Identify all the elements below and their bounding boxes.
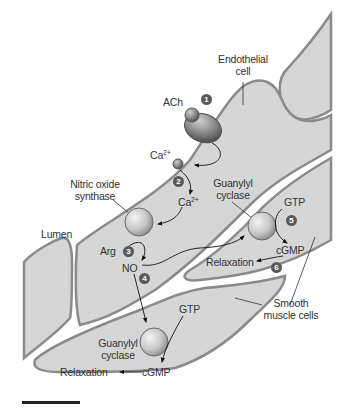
label-ca-mid-text: Ca: [178, 196, 191, 208]
step-badge-1: 1: [201, 94, 212, 105]
step-badge-4: 4: [139, 273, 150, 284]
label-gtp-lower: GTP: [179, 303, 200, 315]
label-no: NO: [122, 262, 137, 274]
label-endothelial-cell: Endothelial cell: [214, 53, 272, 77]
label-ca-top-text: Ca: [150, 149, 163, 161]
step-badge-6: 6: [271, 262, 282, 273]
label-guanylyl-cyclase-lower: Guanylyl cyclase: [93, 337, 143, 361]
label-gc-lower-line1: Guanylyl: [93, 337, 143, 349]
label-nos-line2: synthase: [62, 190, 128, 202]
label-arg: Arg: [100, 245, 116, 257]
label-ca-top: Ca2+: [150, 149, 171, 161]
label-cgmp-upper: cGMP: [276, 244, 304, 256]
label-ach: ACh: [163, 96, 183, 108]
label-cgmp-lower: cGMP: [142, 366, 170, 378]
label-ca-mid: Ca2+: [178, 196, 199, 208]
label-gtp-upper: GTP: [284, 196, 305, 208]
label-guanylyl-cyclase-upper: Guanylyl cyclase: [208, 177, 258, 201]
left-cell: [24, 238, 72, 358]
label-nitric-oxide-synthase: Nitric oxide synthase: [62, 178, 128, 202]
label-gc-upper-line2: cyclase: [208, 189, 258, 201]
label-nos-line1: Nitric oxide: [62, 178, 128, 190]
label-smooth-line1: Smooth: [261, 297, 321, 309]
label-ca-top-sup: 2+: [163, 149, 171, 156]
label-ca-mid-sup: 2+: [191, 196, 199, 203]
diagram-canvas: Endothelial cell ACh 1 Ca2+ 2 Nitric oxi…: [0, 0, 351, 408]
label-lumen: Lumen: [41, 228, 72, 240]
label-relaxation-lower: Relaxation: [60, 366, 108, 378]
step-badge-2: 2: [173, 176, 184, 187]
label-endothelial-line1: Endothelial: [214, 53, 272, 65]
label-smooth-muscle-cells: Smooth muscle cells: [261, 297, 321, 321]
label-smooth-line2: muscle cells: [261, 309, 321, 321]
label-relaxation-upper: Relaxation: [206, 256, 254, 268]
step-badge-3: 3: [123, 246, 134, 257]
label-gc-upper-line1: Guanylyl: [208, 177, 258, 189]
label-endothelial-line2: cell: [214, 65, 272, 77]
scale-bar: [22, 401, 80, 404]
top-right-cell: [280, 14, 331, 119]
step-badge-5: 5: [286, 215, 297, 226]
label-gc-lower-line2: cyclase: [93, 349, 143, 361]
